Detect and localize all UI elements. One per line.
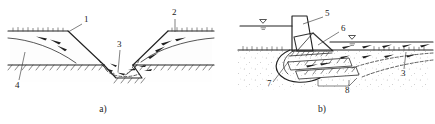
panel-a: 1 2 3 4 a) bbox=[8, 7, 214, 115]
panel-a-caption: a) bbox=[99, 104, 106, 115]
active-wedge bbox=[294, 33, 333, 51]
figure-container: 1 2 3 4 a) bbox=[0, 0, 435, 124]
water-table-symbol-downstream bbox=[349, 36, 356, 46]
callout-1-label: 1 bbox=[84, 14, 89, 24]
callout-7-label: 7 bbox=[267, 78, 272, 88]
callout-3-label: 3 bbox=[117, 39, 122, 49]
panel-b-upstream-water bbox=[240, 20, 292, 30]
panel-b: 5 6 3 7 8 b) bbox=[238, 8, 433, 115]
callout-4-label: 4 bbox=[15, 80, 20, 90]
callout-3b-label: 3 bbox=[401, 68, 406, 78]
water-table-symbol-upstream bbox=[260, 20, 267, 30]
callout-6-label: 6 bbox=[341, 23, 346, 33]
callout-5-label: 5 bbox=[325, 8, 330, 18]
panel-b-caption: b) bbox=[318, 104, 326, 115]
callout-8-label: 8 bbox=[345, 85, 350, 95]
panel-a-crest-left bbox=[8, 28, 68, 32]
figure-drawing: 1 2 3 4 a) bbox=[0, 0, 435, 124]
panel-b-downstream-water bbox=[330, 36, 433, 46]
callout-2-label: 2 bbox=[172, 7, 177, 17]
